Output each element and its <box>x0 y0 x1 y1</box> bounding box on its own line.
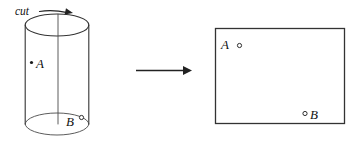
figure-canvas: cut A B A B <box>0 0 358 151</box>
cut-label: cut <box>15 5 30 17</box>
cylinder-point-a-marker <box>30 61 33 64</box>
cylinder-bottom-front-arc <box>25 124 89 135</box>
diagram-svg: cut A B A B <box>0 0 358 151</box>
cylinder-top-ellipse <box>25 14 89 36</box>
cylinder-point-a-label: A <box>35 56 44 71</box>
rect-point-a-label: A <box>220 37 229 52</box>
cut-arrow-head-icon <box>65 8 73 14</box>
rectangle-group: A B <box>216 29 345 124</box>
rect-point-b-marker <box>303 111 307 115</box>
transformation-arrow-group <box>136 66 192 75</box>
cylinder-point-b-label: B <box>66 114 74 129</box>
rect-point-b-label: B <box>310 107 318 122</box>
rect-point-a-marker <box>237 43 241 47</box>
unrolled-rectangle-outline <box>216 29 345 124</box>
cylinder-point-b-marker <box>79 115 83 119</box>
arrow-right-icon <box>183 66 192 75</box>
cylinder-group: cut A B <box>15 5 89 135</box>
cut-arrow-shaft <box>40 11 68 13</box>
